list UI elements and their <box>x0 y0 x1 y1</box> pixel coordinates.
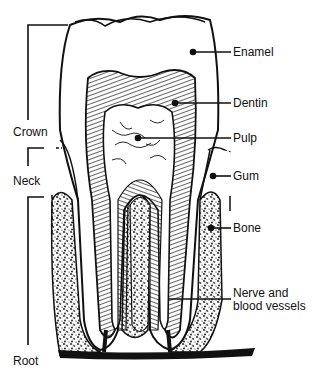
tooth-diagram <box>0 0 325 385</box>
label-bone: Bone <box>233 222 261 235</box>
label-pulp: Pulp <box>233 132 257 145</box>
label-dentin: Dentin <box>233 97 268 110</box>
label-neck: Neck <box>13 175 40 188</box>
label-nerve-line2: blood vessels <box>233 300 306 313</box>
label-crown: Crown <box>13 126 48 139</box>
label-root: Root <box>13 355 38 368</box>
label-gum: Gum <box>233 170 259 183</box>
label-enamel: Enamel <box>233 46 274 59</box>
